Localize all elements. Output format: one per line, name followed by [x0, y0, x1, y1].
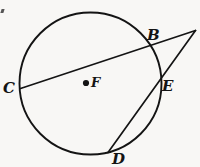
point-label-d: D: [112, 152, 125, 167]
point-label-e: E: [162, 79, 173, 94]
center-label-f: F: [91, 76, 100, 89]
diagram-canvas: B C E D F: [0, 0, 200, 167]
point-label-c: C: [3, 81, 15, 96]
point-label-b: B: [147, 28, 160, 43]
center-point-F-dot: [83, 80, 89, 86]
